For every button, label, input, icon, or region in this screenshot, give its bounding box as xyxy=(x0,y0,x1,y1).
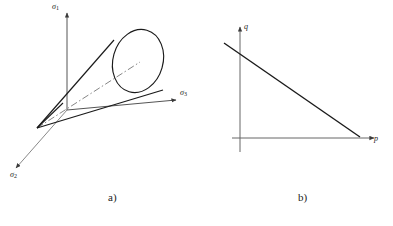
p-axis-label: p xyxy=(374,134,378,143)
panel-a-caption: a) xyxy=(108,191,117,203)
panel-b-caption: b) xyxy=(298,191,307,203)
sigma2-axis xyxy=(16,110,67,168)
cone-generator-upper xyxy=(37,40,114,128)
sigma2-axis-label: σ2 xyxy=(10,170,17,179)
q-axis-label: q xyxy=(244,22,248,31)
panel-a-group xyxy=(16,13,176,168)
sigma1-axis-label: σ1 xyxy=(52,2,59,11)
cone-base-ellipse xyxy=(105,23,171,98)
sigma3-axis-label: σ3 xyxy=(180,88,187,97)
sigma3-axis xyxy=(67,100,176,110)
cone-generator-lower xyxy=(37,90,163,128)
hydrostatic-axis-dashdot xyxy=(37,62,140,128)
figure-root: σ1 σ2 σ3 q p a) b) xyxy=(0,0,393,226)
panel-b-group xyxy=(224,27,374,152)
yield-line xyxy=(224,43,360,137)
figure-drawing xyxy=(0,0,393,226)
